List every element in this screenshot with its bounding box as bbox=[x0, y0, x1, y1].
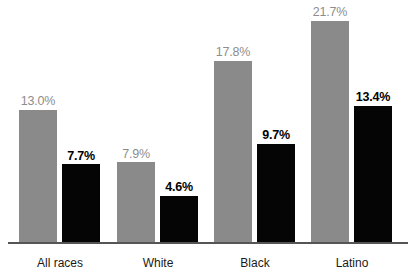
bar-gray-white[interactable] bbox=[117, 162, 155, 243]
category-label-black: Black bbox=[200, 256, 310, 270]
bar-group-white: 7.9% 4.6% bbox=[117, 0, 199, 243]
bar-value-label-gray-1: 7.9% bbox=[106, 148, 166, 161]
bar-group-all-races: 13.0% 7.7% bbox=[19, 0, 101, 243]
bar-value-label-gray-0: 13.0% bbox=[8, 95, 68, 108]
bar-group-latino: 21.7% 13.4% bbox=[311, 0, 393, 243]
bar-value-label-black-1: 4.6% bbox=[149, 181, 209, 194]
bar-chart: 13.0% 7.7% 7.9% 4.6% 17.8% 9.7% 21.7% 13… bbox=[0, 0, 416, 273]
bar-black-white[interactable] bbox=[160, 196, 198, 243]
category-label-all-races: All races bbox=[5, 256, 115, 270]
bar-value-label-black-2: 9.7% bbox=[246, 129, 306, 142]
plot-area: 13.0% 7.7% 7.9% 4.6% 17.8% 9.7% 21.7% 13… bbox=[0, 0, 416, 243]
bar-group-black: 17.8% 9.7% bbox=[214, 0, 296, 243]
bar-value-label-black-0: 7.7% bbox=[51, 150, 111, 163]
bar-black-black[interactable] bbox=[257, 144, 295, 243]
x-axis-category-labels: All races White Black Latino bbox=[0, 243, 416, 273]
bar-black-latino[interactable] bbox=[354, 106, 392, 243]
bar-gray-latino[interactable] bbox=[311, 21, 349, 243]
bar-value-label-gray-2: 17.8% bbox=[203, 46, 263, 59]
category-label-white: White bbox=[103, 256, 213, 270]
bar-black-all-races[interactable] bbox=[62, 164, 100, 243]
bar-value-label-black-3: 13.4% bbox=[343, 91, 403, 104]
bar-gray-black[interactable] bbox=[214, 61, 252, 243]
bar-gray-all-races[interactable] bbox=[19, 110, 57, 243]
category-label-latino: Latino bbox=[297, 256, 407, 270]
bar-value-label-gray-3: 21.7% bbox=[300, 6, 360, 19]
